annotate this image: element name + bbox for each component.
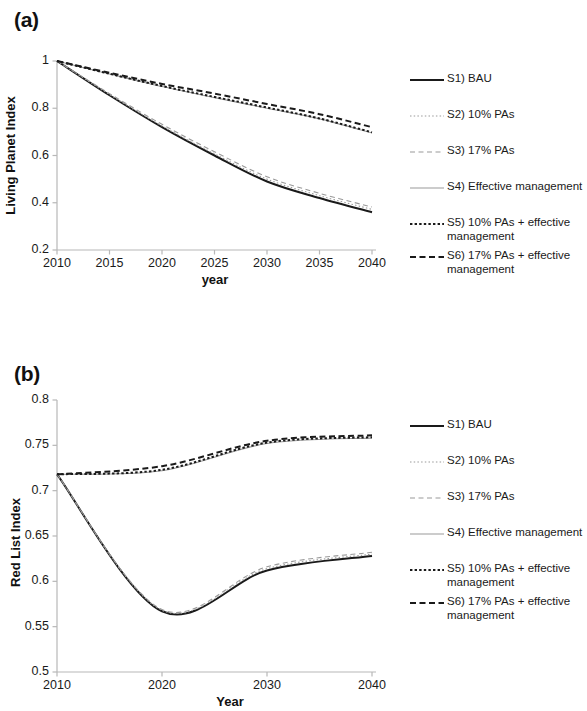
panel-b-x-tick-label: 2040: [347, 678, 397, 692]
series-line-s6: [57, 61, 372, 127]
legend-label-s5: S5) 10% PAs + effective management: [447, 562, 570, 589]
panel-a-x-tick-label: 2020: [137, 256, 187, 270]
panel-b-y-tick-label: 0.6: [5, 573, 49, 587]
legend-label-s2: S2) 10% PAs: [447, 108, 515, 122]
legend-label-s1: S1) BAU: [447, 72, 492, 86]
legend-line-swatch-s6: [410, 596, 444, 610]
panel-b-y-tick-label: 0.7: [5, 483, 49, 497]
legend-item-s4[interactable]: S4) Effective management: [410, 180, 587, 195]
series-line-s4: [57, 438, 372, 474]
panel-a-x-tick-label: 2030: [242, 256, 292, 270]
panel-b-x-tick-label: 2020: [137, 678, 187, 692]
legend-item-s2[interactable]: S2) 10% PAs: [410, 108, 587, 123]
legend-line-swatch-s4: [410, 527, 444, 541]
panel-b-legend: S1) BAUS2) 10% PAsS3) 17% PAsS4) Effecti…: [410, 418, 587, 628]
legend-item-s4[interactable]: S4) Effective management: [410, 526, 587, 541]
legend-item-s5[interactable]: S5) 10% PAs + effective management: [410, 562, 587, 589]
panel-a: (a) Living Planet Index year S1) BAUS2) …: [0, 0, 581, 350]
panel-a-y-tick-label: 1: [5, 53, 49, 67]
legend-item-s1[interactable]: S1) BAU: [410, 72, 587, 87]
panel-a-x-tick-label: 2015: [85, 256, 135, 270]
legend-label-s6: S6) 17% PAs + effective management: [447, 595, 570, 622]
panel-a-y-tick-label: 0.4: [5, 195, 49, 209]
series-line-s2: [57, 474, 372, 613]
legend-label-s3: S3) 17% PAs: [447, 490, 515, 504]
series-line-s1: [57, 474, 372, 614]
series-line-s5: [57, 437, 372, 474]
series-line-s2: [57, 61, 372, 209]
legend-item-s2[interactable]: S2) 10% PAs: [410, 454, 587, 469]
series-line-s3: [57, 61, 372, 207]
series-line-s1: [57, 61, 372, 212]
legend-label-s4: S4) Effective management: [447, 180, 582, 194]
legend-item-s6[interactable]: S6) 17% PAs + effective management: [410, 249, 587, 276]
legend-item-s3[interactable]: S3) 17% PAs: [410, 144, 587, 159]
panel-a-legend: S1) BAUS2) 10% PAsS3) 17% PAsS4) Effecti…: [410, 72, 587, 282]
panel-b-y-tick-label: 0.65: [5, 528, 49, 542]
legend-item-s1[interactable]: S1) BAU: [410, 418, 587, 433]
legend-line-swatch-s5: [410, 217, 444, 231]
panel-a-y-tick-label: 0.2: [5, 242, 49, 256]
panel-a-x-tick-label: 2025: [190, 256, 240, 270]
legend-line-swatch-s3: [410, 491, 444, 505]
series-line-s6: [57, 435, 372, 474]
legend-label-s2: S2) 10% PAs: [447, 454, 515, 468]
panel-b-y-tick-label: 0.55: [5, 619, 49, 633]
panel-b-y-tick-label: 0.75: [5, 437, 49, 451]
legend-item-s5[interactable]: S5) 10% PAs + effective management: [410, 216, 587, 243]
legend-item-s6[interactable]: S6) 17% PAs + effective management: [410, 595, 587, 622]
panel-b: (b) Red List Index Year S1) BAUS2) 10% P…: [0, 350, 581, 711]
legend-line-swatch-s4: [410, 181, 444, 195]
panel-a-y-tick-label: 0.6: [5, 148, 49, 162]
legend-label-s1: S1) BAU: [447, 418, 492, 432]
legend-label-s3: S3) 17% PAs: [447, 144, 515, 158]
panel-a-x-tick-label: 2035: [295, 256, 345, 270]
panel-b-y-tick-label: 0.8: [5, 392, 49, 406]
legend-label-s4: S4) Effective management: [447, 526, 582, 540]
legend-line-swatch-s1: [410, 419, 444, 433]
legend-line-swatch-s2: [410, 109, 444, 123]
legend-label-s5: S5) 10% PAs + effective management: [447, 216, 570, 243]
panel-a-y-tick-label: 0.8: [5, 100, 49, 114]
legend-line-swatch-s6: [410, 250, 444, 264]
panel-a-x-tick-label: 2040: [347, 256, 397, 270]
legend-item-s3[interactable]: S3) 17% PAs: [410, 490, 587, 505]
panel-a-x-tick-label: 2010: [32, 256, 82, 270]
panel-b-y-tick-label: 0.5: [5, 664, 49, 678]
series-line-s3: [57, 474, 372, 612]
legend-line-swatch-s1: [410, 73, 444, 87]
legend-line-swatch-s3: [410, 145, 444, 159]
legend-label-s6: S6) 17% PAs + effective management: [447, 249, 570, 276]
legend-line-swatch-s5: [410, 563, 444, 577]
legend-line-swatch-s2: [410, 455, 444, 469]
panel-b-x-tick-label: 2010: [32, 678, 82, 692]
panel-b-x-tick-label: 2030: [242, 678, 292, 692]
